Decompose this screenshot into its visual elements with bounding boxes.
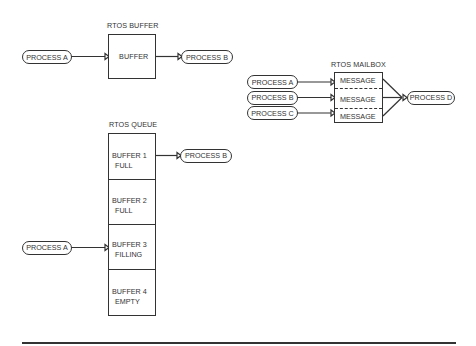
arrow-line-slot1-to-d	[383, 79, 402, 98]
mailbox-box: MESSAGE MESSAGE MESSAGE	[334, 72, 383, 123]
rtos-buffer-title: RTOS BUFFER	[107, 21, 159, 30]
buffer-state: EMPTY	[115, 297, 140, 306]
process-a-node: PROCESS A	[22, 50, 72, 64]
mailbox-process-d-node: PROCESS D	[407, 91, 455, 105]
message-label: MESSAGE	[340, 95, 376, 104]
buffer-state: FULL	[115, 206, 133, 215]
queue-buffer-4: BUFFER 4 EMPTY	[109, 269, 155, 316]
arrow-line-slot3-to-d	[383, 98, 402, 117]
queue-buffer-2: BUFFER 2 FULL	[109, 179, 155, 225]
queue-box: BUFFER 1 FULL BUFFER 2 FULL BUFFER 3 FIL…	[108, 133, 156, 316]
mailbox-slot-2: MESSAGE	[335, 88, 382, 108]
bottom-divider	[22, 342, 456, 344]
queue-buffer-3: BUFFER 3 FILLING	[109, 224, 155, 270]
message-label: MESSAGE	[340, 76, 376, 85]
mailbox-process-a-node: PROCESS A	[247, 75, 298, 89]
buffer-state: FULL	[115, 161, 133, 170]
buffer-box: BUFFER	[108, 34, 156, 79]
mailbox-process-c-node: PROCESS C	[247, 106, 298, 120]
buffer-name: BUFFER 4	[112, 287, 147, 296]
buffer-name: BUFFER 2	[112, 196, 147, 205]
mailbox-slot-1: MESSAGE	[335, 73, 382, 88]
buffer-name: BUFFER 3	[112, 240, 147, 249]
rtos-diagram: RTOS BUFFER PROCESS A BUFFER PROCESS B R…	[0, 0, 476, 346]
buffer-state: FILLING	[115, 250, 142, 259]
buffer-name: BUFFER 1	[112, 151, 147, 160]
mailbox-slot-3: MESSAGE	[335, 108, 382, 123]
rtos-mailbox-title: RTOS MAILBOX	[331, 60, 386, 69]
message-label: MESSAGE	[340, 112, 376, 121]
connector-layer	[0, 0, 476, 346]
mailbox-process-b-node: PROCESS B	[247, 91, 298, 105]
queue-process-b-node: PROCESS B	[180, 149, 232, 163]
queue-process-a-node: PROCESS A	[22, 241, 72, 255]
queue-buffer-1: BUFFER 1 FULL	[109, 134, 155, 180]
buffer-label: BUFFER	[119, 52, 148, 61]
rtos-queue-title: RTOS QUEUE	[109, 120, 157, 129]
process-b-node: PROCESS B	[181, 50, 233, 64]
